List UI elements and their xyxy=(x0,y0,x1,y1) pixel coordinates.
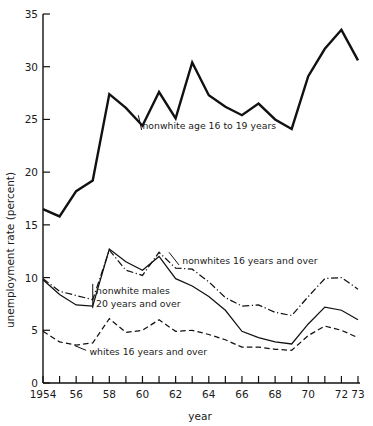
ann-males-2: 20 years and over xyxy=(96,298,181,309)
x-tick-label-73: 73 xyxy=(351,388,364,400)
y-axis-title: unemployment rate (percent) xyxy=(4,172,16,328)
y-tick-label-10: 10 xyxy=(25,272,38,284)
x-tick-label-72: 72 xyxy=(335,388,348,400)
x-axis-title: year xyxy=(188,410,212,422)
x-tick-label-68: 68 xyxy=(268,388,281,400)
y-tick-label-35: 35 xyxy=(25,8,38,20)
x-tick-label-1954: 1954 xyxy=(30,388,57,400)
x-tick-label-64: 64 xyxy=(202,388,216,400)
ann-teen: nonwhite age 16 to 19 years xyxy=(142,120,276,131)
x-tick-label-60: 60 xyxy=(136,388,149,400)
y-tick-label-15: 15 xyxy=(25,219,38,231)
x-tick-label-56: 56 xyxy=(69,388,83,400)
x-tick-label-66: 66 xyxy=(235,388,249,400)
x-tick-label-62: 62 xyxy=(169,388,182,400)
y-tick-label-30: 30 xyxy=(25,61,38,73)
chart-canvas: 05101520253035 195456586062646668707273 … xyxy=(0,0,373,426)
x-tick-label-58: 58 xyxy=(103,388,116,400)
y-tick-label-5: 5 xyxy=(31,324,38,336)
y-tick-label-25: 25 xyxy=(25,113,38,125)
y-tick-label-20: 20 xyxy=(25,166,38,178)
ann-nonwhites: nonwhites 16 years and over xyxy=(182,255,317,266)
ann-whites: whites 16 years and over xyxy=(89,346,207,357)
x-tick-label-70: 70 xyxy=(302,388,315,400)
ann-males-1: nonwhite males xyxy=(96,285,170,296)
unemployment-rate-line-chart: 05101520253035 195456586062646668707273 … xyxy=(0,0,373,426)
